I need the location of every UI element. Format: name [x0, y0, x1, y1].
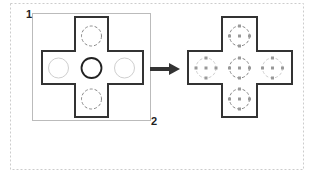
diagram-canvas [0, 0, 322, 174]
arrow-right-icon [150, 63, 180, 75]
cross-shape-before [42, 17, 143, 117]
corner-label-end: 2 [151, 116, 157, 127]
before-diagram [33, 14, 151, 121]
after-diagram [188, 17, 292, 117]
outer-frame [11, 4, 304, 170]
corner-label-start: 1 [26, 9, 32, 20]
